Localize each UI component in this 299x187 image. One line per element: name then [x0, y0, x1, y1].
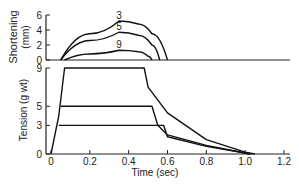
top-ylabel-1: Shortening: [7, 10, 19, 63]
y-tick-label: 9: [36, 63, 42, 74]
series-9: [65, 50, 152, 60]
x-tick-label: 0.6: [161, 156, 175, 167]
bottom-ylabel: Tension (g wt): [18, 79, 29, 141]
x-tick-label: 0.2: [83, 156, 97, 167]
y-tick-label: 3: [36, 120, 42, 131]
y-tick-label: 4: [36, 25, 42, 36]
top-ylabel-2: (mm): [20, 25, 31, 48]
x-tick-label: 0.4: [122, 156, 136, 167]
y-tick-label: 0: [36, 149, 42, 160]
x-tick-label: 1.2: [277, 156, 291, 167]
chart: 0246359 035900.20.40.60.81.01.2 Shorteni…: [0, 0, 299, 187]
x-tick-label: 1.0: [238, 156, 252, 167]
series-3: [61, 21, 168, 60]
series-label: 5: [116, 21, 122, 32]
series-5: [61, 106, 251, 154]
x-axis-label: Time (sec): [132, 167, 179, 178]
y-tick-label: 2: [36, 40, 42, 51]
x-tick-label: 0: [48, 156, 54, 167]
tension-panel: 035900.20.40.60.81.01.2: [36, 63, 291, 167]
series-3: [59, 125, 249, 154]
x-tick-label: 0.8: [199, 156, 213, 167]
shortening-panel: 0246359: [36, 10, 290, 66]
y-tick-label: 5: [36, 101, 42, 112]
series-label: 3: [116, 10, 122, 21]
series-label: 9: [116, 39, 122, 50]
y-tick-label: 6: [36, 10, 42, 21]
